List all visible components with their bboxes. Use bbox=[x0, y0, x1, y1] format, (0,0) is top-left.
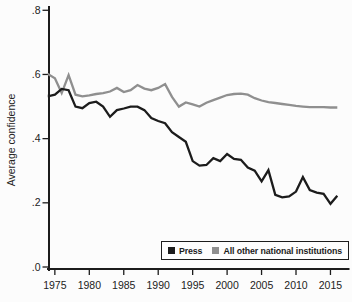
y-axis-title: Average confidence bbox=[5, 94, 17, 187]
y-tick-label: .8 bbox=[32, 4, 41, 16]
y-tick-label: .2 bbox=[32, 196, 41, 208]
x-tick-label: 1990 bbox=[147, 279, 171, 291]
y-tick-label: .4 bbox=[32, 132, 41, 144]
chart-figure: .8.6.4.2.0197519801985199019952000200520… bbox=[0, 0, 352, 302]
x-tick-label: 1985 bbox=[112, 279, 136, 291]
x-tick-label: 1980 bbox=[78, 279, 102, 291]
x-tick-label: 2000 bbox=[215, 279, 239, 291]
legend-box: Press All other national institutions bbox=[161, 241, 349, 260]
line-all-other-national-institutions bbox=[41, 73, 337, 108]
x-tick-label: 2010 bbox=[284, 279, 308, 291]
x-tick-label: 2015 bbox=[319, 279, 343, 291]
legend-label-press: Press bbox=[179, 246, 202, 256]
legend-label-other-institutions: All other national institutions bbox=[223, 246, 342, 256]
legend-swatch-other-institutions bbox=[212, 247, 219, 254]
x-tick-label: 2005 bbox=[250, 279, 274, 291]
y-tick-label: .6 bbox=[32, 68, 41, 80]
y-tick-label: .0 bbox=[32, 261, 41, 273]
legend-swatch-press bbox=[168, 247, 175, 254]
x-tick-label: 1975 bbox=[43, 279, 67, 291]
x-tick-label: 1995 bbox=[181, 279, 205, 291]
data-series bbox=[41, 73, 337, 204]
